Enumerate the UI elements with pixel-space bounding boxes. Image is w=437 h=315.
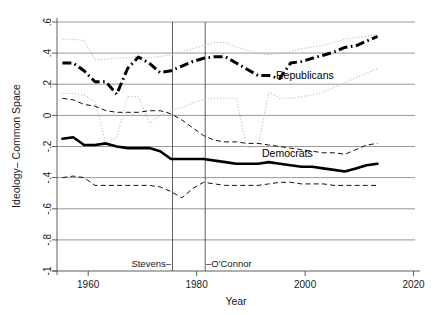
series-label-democrats: Democrats [262, 147, 313, 159]
y-tick-label: .2 [42, 80, 53, 89]
x-tick-labels: 1960 1980 2000 2020 [77, 279, 425, 290]
x-tick-label: 2000 [294, 279, 317, 290]
x-tick-label: 1960 [77, 279, 100, 290]
y-tick-label: -.4 [42, 171, 53, 183]
x-tick-label: 1980 [185, 279, 208, 290]
x-tick-label: 2020 [402, 279, 425, 290]
y-tick-label: -.2 [42, 140, 53, 152]
x-axis [52, 271, 420, 276]
annotation-stevens: Stevens– [131, 258, 171, 269]
y-axis [52, 18, 57, 275]
ideology-common-space-chart: .6 .4 .2 0 -.2 -.4 -.6 -.8 -1 Ideology– … [0, 0, 437, 315]
democrats-lower-ci-line [62, 176, 377, 198]
democrats-line [62, 137, 377, 171]
y-tick-label: -.6 [42, 203, 53, 215]
chart-figure: .6 .4 .2 0 -.2 -.4 -.6 -.8 -1 Ideology– … [0, 0, 437, 315]
y-tick-label: 0 [42, 112, 53, 118]
x-axis-title: Year [225, 295, 247, 307]
series-label-republicans: Republicans [276, 69, 334, 81]
republicans-line [62, 36, 377, 94]
democrats-upper-ci-line [62, 98, 377, 154]
gridlines [57, 22, 415, 240]
y-tick-labels: .6 .4 .2 0 -.2 -.4 -.6 -.8 -1 [42, 17, 53, 275]
y-tick-label: -1 [42, 266, 53, 275]
y-axis-title: Ideology– Common Space [10, 84, 22, 208]
y-tick-label: -.8 [42, 234, 53, 246]
y-tick-label: .6 [42, 17, 53, 26]
y-tick-label: .4 [42, 48, 53, 57]
annotation-oconnor: –O'Connor [206, 258, 252, 269]
